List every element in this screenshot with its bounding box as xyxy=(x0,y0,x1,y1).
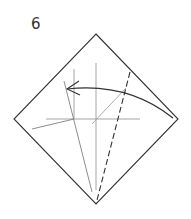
valley-fold-line xyxy=(96,72,130,204)
lower-left-crease xyxy=(32,119,74,129)
origami-diagram xyxy=(0,0,191,219)
fold-direction-arrow xyxy=(67,88,173,118)
